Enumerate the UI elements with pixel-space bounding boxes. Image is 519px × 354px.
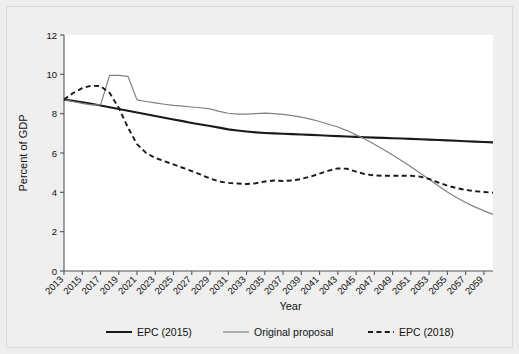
- legend-label: EPC (2015): [137, 326, 192, 338]
- y-tick-label: 12: [46, 30, 57, 41]
- y-tick-label: 6: [52, 148, 57, 159]
- figure-container: 024681012 201320152017201920212023202520…: [0, 0, 519, 354]
- y-tick-label: 8: [52, 108, 57, 119]
- line-chart: 024681012 201320152017201920212023202520…: [7, 7, 512, 347]
- figure-inner-frame: 024681012 201320152017201920212023202520…: [6, 6, 513, 348]
- legend-label: EPC (2018): [399, 326, 454, 338]
- chart-legend: EPC (2015)Original proposalEPC (2018): [106, 326, 454, 338]
- x-axis-label: Year: [279, 300, 302, 312]
- y-tick-label: 10: [46, 69, 57, 80]
- legend-label: Original proposal: [254, 326, 333, 338]
- y-tick-label: 2: [52, 226, 57, 237]
- y-tick-label: 4: [52, 187, 57, 198]
- y-axis-label: Percent of GDP: [17, 114, 29, 191]
- plot-area-background: [64, 35, 493, 271]
